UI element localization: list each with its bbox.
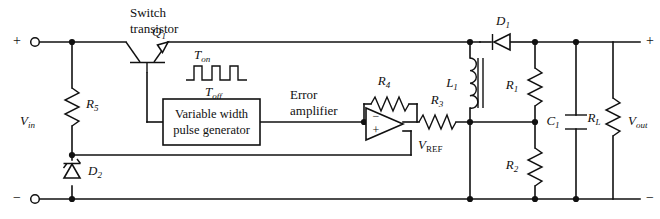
junction-dots xyxy=(69,39,579,202)
r2-zigzag xyxy=(528,148,542,186)
r1-zigzag xyxy=(528,68,542,106)
junction-dot xyxy=(532,196,538,202)
r3-label: R3 xyxy=(430,92,444,109)
vout-label: Vout xyxy=(628,113,648,130)
r1-label: R1 xyxy=(505,77,518,94)
input-plus-label: + xyxy=(13,33,21,48)
r4-label: R4 xyxy=(377,73,391,90)
error-amplifier-line2: amplifier xyxy=(290,103,338,118)
switch-transistor-line2: transistor xyxy=(130,21,179,36)
input-minus-terminal[interactable] xyxy=(31,195,40,204)
opamp-triangle xyxy=(366,108,403,140)
r2-label: R2 xyxy=(505,157,519,174)
output-minus-label: − xyxy=(646,190,654,205)
schematic-canvas: + − + − Q1 Switch transistor R5 xyxy=(0,0,660,219)
r5-label: R5 xyxy=(85,96,99,113)
inductor-l1: L1 xyxy=(445,58,483,108)
q1-collector-lead xyxy=(126,42,140,62)
switch-transistor-caption: Switch transistor xyxy=(130,5,179,36)
l1-coil xyxy=(470,58,478,108)
opamp-noninverting-label: + xyxy=(373,123,380,137)
junction-dot xyxy=(69,196,75,202)
junction-dot xyxy=(573,196,579,202)
ton-label: Ton xyxy=(194,47,211,64)
opamp-inverting-label: − xyxy=(373,109,380,123)
junction-dot xyxy=(532,39,538,45)
rl-zigzag xyxy=(606,98,620,136)
resistor-r2: R2 xyxy=(505,148,542,186)
resistor-r5: R5 xyxy=(65,88,99,126)
pulse-generator-line2: pulse generator xyxy=(173,123,251,137)
switch-transistor-line1: Switch xyxy=(130,5,167,20)
d2-triangle xyxy=(64,164,80,178)
junction-dot xyxy=(573,39,579,45)
resistor-r3: R3 xyxy=(419,92,456,129)
junction-dot xyxy=(69,39,75,45)
junction-dot xyxy=(467,39,473,45)
r5-zigzag xyxy=(65,88,79,126)
capacitor-c1: C1 xyxy=(546,113,587,130)
junction-dot xyxy=(467,119,473,125)
junction-dot xyxy=(532,119,538,125)
junction-dot xyxy=(69,152,75,158)
d1-triangle xyxy=(494,34,510,50)
error-amplifier-line1: Error xyxy=(290,87,318,102)
circuit-diagram: + − + − Q1 Switch transistor R5 xyxy=(0,0,660,219)
r3-zigzag xyxy=(419,115,456,129)
resistor-r1: R1 xyxy=(505,68,542,106)
opamp-error-amplifier: − + xyxy=(366,108,403,140)
error-amplifier-caption: Error amplifier xyxy=(290,87,338,118)
vin-label: Vin xyxy=(20,113,35,130)
pulse-train-path xyxy=(186,66,247,80)
d2-label: D2 xyxy=(87,163,102,180)
pulse-generator-block[interactable]: Variable width pulse generator xyxy=(163,99,260,145)
resistor-r4: R4 xyxy=(371,73,409,111)
q1-emitter-arrow xyxy=(158,42,169,53)
resistor-rl: RL xyxy=(587,98,620,136)
d1-label: D1 xyxy=(495,13,510,30)
input-plus-terminal[interactable] xyxy=(31,38,40,47)
c1-label: C1 xyxy=(546,113,559,130)
l1-label: L1 xyxy=(445,75,458,92)
diode-d1: D1 xyxy=(493,13,511,50)
diode-d2: D2 xyxy=(64,159,103,180)
rl-label: RL xyxy=(587,110,601,127)
output-plus-label: + xyxy=(646,33,654,48)
vref-label: VREF xyxy=(418,137,442,154)
junction-dot xyxy=(467,196,473,202)
pulse-waveform: Ton Toff xyxy=(186,47,247,101)
input-minus-label: − xyxy=(13,190,21,205)
pulse-generator-line1: Variable width xyxy=(175,107,249,121)
